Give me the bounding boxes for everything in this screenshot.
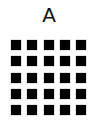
grid-square bbox=[60, 105, 70, 115]
grid-square bbox=[27, 56, 37, 66]
grid-square bbox=[11, 40, 21, 50]
grid-square bbox=[60, 89, 70, 99]
grid-square bbox=[11, 105, 21, 115]
grid-square bbox=[11, 73, 21, 83]
grid-square bbox=[44, 40, 54, 50]
grid-square bbox=[27, 89, 37, 99]
panel-label: A bbox=[0, 4, 98, 26]
grid-square bbox=[60, 40, 70, 50]
grid-square bbox=[44, 56, 54, 66]
grid-square bbox=[11, 89, 21, 99]
grid-square bbox=[76, 40, 86, 50]
grid-square bbox=[11, 56, 21, 66]
grid-square bbox=[60, 73, 70, 83]
grid-square bbox=[27, 40, 37, 50]
grid-square bbox=[60, 56, 70, 66]
grid-square bbox=[44, 73, 54, 83]
grid-square bbox=[27, 73, 37, 83]
grid-square bbox=[76, 56, 86, 66]
grid-square bbox=[76, 73, 86, 83]
grid-square bbox=[27, 105, 37, 115]
grid-square bbox=[44, 105, 54, 115]
grid-square bbox=[44, 89, 54, 99]
square-grid bbox=[11, 40, 86, 115]
grid-square bbox=[76, 89, 86, 99]
grid-square bbox=[76, 105, 86, 115]
